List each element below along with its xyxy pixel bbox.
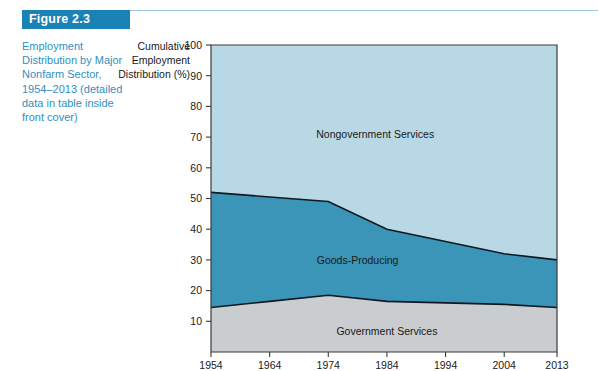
y-tick-label-10: 10 (190, 315, 202, 327)
x-tick-label-2004: 2004 (493, 359, 517, 371)
y-tick-label-80: 80 (190, 100, 202, 112)
y-tick-label-60: 60 (190, 162, 202, 174)
x-tick-label-1964: 1964 (258, 359, 282, 371)
chart-svg: 102030405060708090100 195419641974198419… (0, 0, 599, 371)
y-tick-label-30: 30 (190, 254, 202, 266)
y-axis-ticks: 102030405060708090100 (184, 39, 211, 327)
series-label-government-services: Government Services (336, 325, 437, 337)
figure-page: Figure 2.3 Employment Distribution by Ma… (0, 0, 599, 371)
y-tick-label-40: 40 (190, 223, 202, 235)
x-tick-label-1954: 1954 (199, 359, 223, 371)
y-tick-label-100: 100 (184, 39, 202, 51)
stacked-area-chart: 102030405060708090100 195419641974198419… (0, 0, 599, 371)
y-tick-label-90: 90 (190, 70, 202, 82)
series-label-nongovernment-services: Nongovernment Services (316, 128, 434, 140)
x-tick-label-1994: 1994 (434, 359, 458, 371)
y-tick-label-20: 20 (190, 284, 202, 296)
series-fills (211, 45, 557, 352)
series-label-goods-producing: Goods-Producing (317, 254, 399, 266)
y-tick-label-70: 70 (190, 131, 202, 143)
x-tick-label-1974: 1974 (317, 359, 341, 371)
x-tick-label-1984: 1984 (375, 359, 399, 371)
x-tick-label-2013: 2013 (545, 359, 569, 371)
x-axis-ticks: 1954196419741984199420042013 (199, 352, 569, 371)
y-tick-label-50: 50 (190, 192, 202, 204)
